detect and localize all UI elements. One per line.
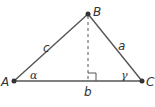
vertex-c-dot	[140, 79, 145, 84]
side-a	[88, 14, 142, 81]
right-angle-marker	[88, 73, 96, 81]
vertex-c-label: C	[146, 75, 155, 89]
side-b-label: b	[84, 85, 92, 99]
vertex-b-label: B	[93, 5, 101, 19]
angle-alpha-label: α	[30, 69, 38, 82]
vertex-a-dot	[12, 79, 17, 84]
side-c-label: c	[43, 41, 50, 55]
side-c	[14, 14, 88, 81]
side-a-label: a	[118, 39, 125, 53]
vertex-b-dot	[86, 12, 91, 17]
triangle-diagram: A B C c a b α γ	[0, 0, 155, 107]
angle-gamma-label: γ	[121, 69, 128, 82]
vertex-a-label: A	[0, 75, 9, 89]
